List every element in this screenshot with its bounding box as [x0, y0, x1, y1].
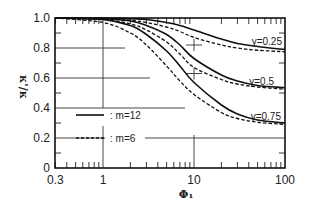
legend: : m=12 : m=6 — [76, 110, 141, 144]
chart: 00.20.40.60.81.0 0.3110100 κ'/κ Φ₁ : m=1… — [0, 0, 311, 213]
annotation-gamma-075: γ=0.75 — [251, 111, 282, 122]
x-tick-label: 100 — [275, 173, 295, 187]
y-tick-label: 1.0 — [33, 11, 50, 25]
x-tick-label: 10 — [187, 173, 201, 187]
y-tick-label: 0.6 — [33, 71, 50, 85]
y-tick-label: 0.2 — [33, 131, 50, 145]
y-tick-label: 0.4 — [33, 101, 50, 115]
x-tick-label: 0.3 — [47, 173, 64, 187]
y-axis-label: κ'/κ — [17, 75, 30, 99]
annotation-gamma-05: γ=0.5 — [249, 76, 274, 87]
legend-label-m12: : m=12 — [110, 110, 141, 121]
x-axis-label: Φ₁ — [179, 188, 194, 201]
x-tick-label: 1 — [100, 173, 107, 187]
y-tick-label: 0.8 — [33, 41, 50, 55]
legend-label-m6: : m=6 — [110, 133, 136, 144]
curve--0-75-m-6 — [56, 18, 286, 125]
annotation-gamma-025: γ=0.25 — [252, 36, 283, 47]
data-curves — [56, 18, 286, 125]
x-tick-labels: 0.3110100 — [47, 173, 295, 187]
y-tick-labels: 00.20.40.60.81.0 — [33, 11, 50, 175]
y-axis-title: κ'/κ — [17, 75, 30, 99]
axis-ticks — [55, 18, 285, 168]
curve--0-75-m-12 — [56, 18, 286, 123]
plot-frame — [55, 18, 285, 168]
curve--0-25-m-12 — [56, 18, 286, 50]
grid-lines — [55, 18, 285, 168]
